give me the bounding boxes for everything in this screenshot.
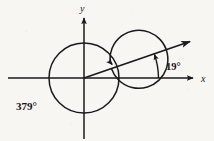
small-angle-label: 19° bbox=[166, 61, 181, 72]
y-axis-label: y bbox=[79, 3, 85, 14]
coterminal-angle-figure: y x 19° 379° bbox=[0, 0, 214, 141]
full-rotation-label: 379° bbox=[16, 100, 37, 112]
x-axis-label: x bbox=[200, 73, 206, 84]
angle-diagram-svg: y x 19° 379° bbox=[0, 0, 214, 141]
small-angle-arc bbox=[155, 55, 159, 79]
